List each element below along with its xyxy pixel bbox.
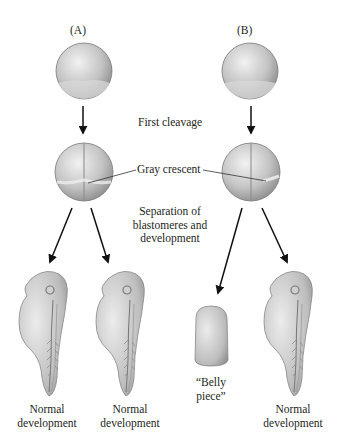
- embryo-normal-b-right: [264, 271, 312, 396]
- outcome-a-right-line2: development: [95, 417, 165, 431]
- outcome-b-right-line1: Normal: [258, 403, 328, 417]
- separation-label: Separation of blastomeres and developmen…: [130, 205, 210, 246]
- separation-label-line3: development: [130, 232, 210, 246]
- separation-label-line1: Separation of: [130, 205, 210, 219]
- first-cleavage-label: First cleavage: [138, 116, 202, 130]
- outcome-b-right-line2: development: [258, 417, 328, 431]
- outcome-b-left: “Belly piece”: [186, 376, 236, 403]
- panel-label-a: (A): [70, 24, 86, 38]
- arrow-b-right: [262, 208, 287, 262]
- arrow-b-left: [218, 208, 242, 293]
- embryo-normal-a-right: [96, 271, 144, 396]
- egg-b-uncleaved: [222, 43, 278, 99]
- egg-a-two-cell: [55, 143, 113, 201]
- panel-label-b: (B): [237, 24, 252, 38]
- egg-b-two-cell: [222, 143, 280, 201]
- outcome-a-left-line2: development: [12, 417, 82, 431]
- arrow-a-right: [91, 208, 108, 262]
- outcome-b-left-line1: “Belly: [186, 376, 236, 390]
- outcome-b-left-line2: piece”: [186, 390, 236, 404]
- gray-crescent-label: Gray crescent: [137, 163, 201, 177]
- outcome-b-right: Normal development: [258, 403, 328, 430]
- egg-a-uncleaved: [56, 43, 112, 99]
- arrow-a-left: [50, 208, 72, 262]
- outcome-a-left: Normal development: [12, 403, 82, 430]
- outcome-a-right: Normal development: [95, 403, 165, 430]
- outcome-a-right-line1: Normal: [95, 403, 165, 417]
- embryo-normal-a-left: [19, 271, 67, 396]
- outcome-a-left-line1: Normal: [12, 403, 82, 417]
- belly-piece: [195, 306, 228, 366]
- separation-label-line2: blastomeres and: [130, 219, 210, 233]
